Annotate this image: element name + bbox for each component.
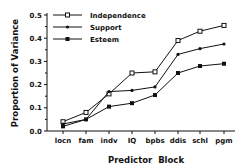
filled-square-marker bbox=[153, 93, 157, 97]
filled-square-marker bbox=[84, 117, 88, 121]
hollow-square-marker bbox=[176, 39, 180, 43]
x-tick-label-iq: IQ bbox=[128, 137, 137, 145]
legend-item-esteem: Esteem bbox=[53, 36, 119, 44]
legend-label: Independence bbox=[90, 12, 146, 20]
dot-marker bbox=[130, 89, 133, 92]
x-axis-title: Predictor Block bbox=[108, 155, 185, 165]
dot-marker bbox=[66, 25, 69, 28]
axes bbox=[47, 13, 235, 131]
legend-label: Support bbox=[90, 24, 122, 32]
filled-square-marker bbox=[130, 101, 134, 105]
filled-square-marker bbox=[61, 124, 65, 128]
y-tick-label: 0.1 bbox=[30, 104, 43, 112]
series-line bbox=[63, 25, 224, 121]
legend-item-support: Support bbox=[53, 24, 122, 32]
hollow-square-marker bbox=[130, 71, 134, 75]
filled-square-marker bbox=[176, 71, 180, 75]
dot-marker bbox=[222, 42, 225, 45]
y-tick-label: 0.5 bbox=[30, 12, 43, 20]
y-tick-label: 0.4 bbox=[30, 35, 43, 43]
hollow-square-marker bbox=[66, 13, 70, 17]
x-tick-label-bpbs: bpbs bbox=[145, 137, 164, 145]
hollow-square-marker bbox=[84, 110, 88, 114]
dot-marker bbox=[198, 47, 201, 50]
line-chart: 0.00.10.20.30.40.5 locnfamindvIQbpbsddis… bbox=[0, 0, 249, 168]
y-tick-label: 0.3 bbox=[30, 58, 43, 66]
filled-square-marker bbox=[198, 64, 202, 68]
hollow-square-marker bbox=[198, 29, 202, 33]
filled-square-marker bbox=[222, 62, 226, 66]
series-line bbox=[63, 64, 224, 127]
legend-item-independence: Independence bbox=[53, 12, 146, 20]
series-esteem bbox=[61, 62, 226, 129]
hollow-square-marker bbox=[153, 70, 157, 74]
x-tick-label-pgm: pgm bbox=[215, 137, 232, 145]
filled-square-marker bbox=[107, 105, 111, 109]
y-tick-label: 0.0 bbox=[30, 128, 43, 136]
dot-marker bbox=[107, 90, 110, 93]
filled-square-marker bbox=[66, 37, 70, 41]
dot-marker bbox=[153, 85, 156, 88]
x-axis-ticks: locnfamindvIQbpbsddisschlpgm bbox=[55, 131, 233, 145]
x-tick-label-ddis: ddis bbox=[170, 137, 187, 145]
x-tick-label-indv: indv bbox=[101, 137, 118, 145]
x-tick-label-locn: locn bbox=[55, 137, 71, 145]
x-tick-label-schl: schl bbox=[192, 137, 208, 145]
y-tick-label: 0.2 bbox=[30, 81, 43, 89]
y-axis-title: Proportion of Variance bbox=[10, 19, 20, 127]
series-independence bbox=[61, 23, 226, 123]
x-tick-label-fam: fam bbox=[78, 137, 93, 145]
legend-label: Esteem bbox=[90, 36, 119, 44]
series-lines bbox=[61, 23, 226, 128]
legend: IndependenceSupportEsteem bbox=[53, 12, 146, 44]
y-axis-ticks: 0.00.10.20.30.40.5 bbox=[30, 12, 47, 136]
dot-marker bbox=[176, 53, 179, 56]
hollow-square-marker bbox=[222, 23, 226, 27]
